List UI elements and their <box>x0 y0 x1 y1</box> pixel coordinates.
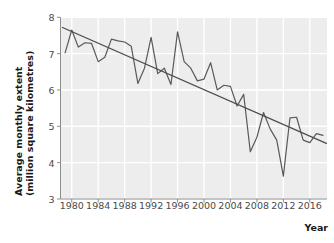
sea-ice-extent-chart: Average monthly extent (million square k… <box>0 0 334 243</box>
y-tick-label: 8 <box>39 12 55 23</box>
x-tick-label: 1996 <box>165 200 189 211</box>
y-tick-label: 5 <box>39 121 55 132</box>
x-tick-label: 1988 <box>113 200 137 211</box>
x-tick-label: 2008 <box>245 200 269 211</box>
x-tick-label: 2004 <box>218 200 242 211</box>
y-tick-label: 6 <box>39 84 55 95</box>
y-axis-title: Average monthly extent (million square k… <box>0 0 44 210</box>
y-tick-label: 4 <box>39 157 55 168</box>
y-axis-title-line1: Average monthly extent <box>13 67 24 196</box>
x-tick-label: 2000 <box>192 200 216 211</box>
x-tick-label: 1992 <box>139 200 163 211</box>
x-axis-title: Year <box>304 222 328 233</box>
y-tick-label: 7 <box>39 48 55 59</box>
y-tick-label: 3 <box>39 194 55 205</box>
x-tick-label: 1984 <box>86 200 110 211</box>
x-tick-label: 2016 <box>298 200 322 211</box>
y-axis-title-line2: (million square kilometres) <box>24 51 35 196</box>
x-tick-label: 2012 <box>271 200 295 211</box>
x-tick-label: 1980 <box>60 200 84 211</box>
